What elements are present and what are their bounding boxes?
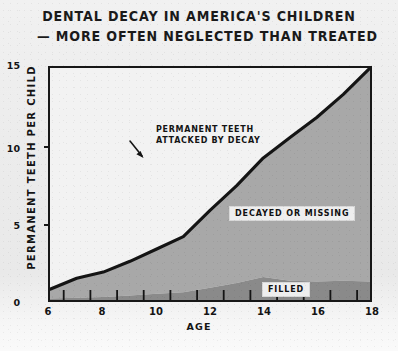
y-tick-label-10: 10 <box>0 143 20 154</box>
x-tick-label-6: 6 <box>35 306 61 317</box>
band-label-decayed-or-missing: DECAYED OR MISSING <box>229 206 355 221</box>
annotation-permanent-teeth-attacked-by-decay: PERMANENT TEETH ATTACKED BY DECAY <box>156 124 261 146</box>
title-line-1: DENTAL DECAY IN AMERICA'S CHILDREN <box>42 8 356 24</box>
x-tick-label-10: 10 <box>143 306 169 317</box>
callout-arrowhead-icon <box>136 151 143 158</box>
x-tick-label-18: 18 <box>359 306 385 317</box>
y-tick-label-15: 15 <box>0 60 20 71</box>
x-tick-label-12: 12 <box>197 306 223 317</box>
area-decayed-or-missing <box>50 68 370 299</box>
x-tick-label-14: 14 <box>251 306 277 317</box>
title-line-2: — MORE OFTEN NEGLECTED THAN TREATED <box>12 26 386 46</box>
y-axis-title: PERMANENT TEETH PER CHILD <box>26 53 37 283</box>
y-tick-label-5: 5 <box>0 220 20 231</box>
chart-page: DENTAL DECAY IN AMERICA'S CHILDREN — MOR… <box>0 0 398 351</box>
annotation-line-2: ATTACKED BY DECAY <box>156 135 261 146</box>
x-tick-label-8: 8 <box>89 306 115 317</box>
x-axis-title: AGE <box>0 321 398 332</box>
y-tick-label-0: 0 <box>0 297 20 308</box>
band-label-filled: FILLED <box>262 282 310 297</box>
chart-svg <box>50 68 370 300</box>
page-title: DENTAL DECAY IN AMERICA'S CHILDREN — MOR… <box>12 6 386 46</box>
plot-area <box>48 66 372 302</box>
annotation-line-1: PERMANENT TEETH <box>156 124 261 135</box>
x-tick-label-16: 16 <box>305 306 331 317</box>
